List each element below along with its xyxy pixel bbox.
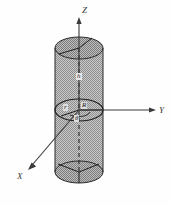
y-axis-label: Y [159, 106, 164, 115]
small-radius-label: r [63, 104, 68, 111]
height-label: h [76, 73, 82, 80]
cylindrical-coordinates-diagram: Z Y X h r R θ [0, 0, 171, 206]
large-radius-label: R [81, 102, 87, 109]
x-axis-label: X [17, 172, 23, 181]
angle-label: θ [74, 115, 79, 122]
z-axis-label: Z [82, 6, 87, 15]
